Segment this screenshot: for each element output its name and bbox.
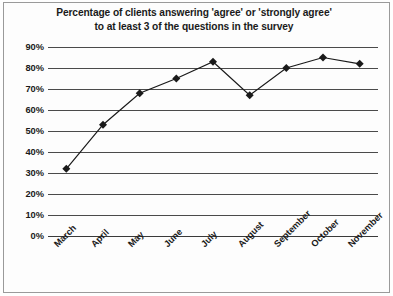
plot-area: 0%10%20%30%40%50%60%70%80%90% MarchApril… (0, 0, 393, 296)
series-line (66, 58, 359, 169)
line-series (0, 0, 393, 296)
data-point-marker (172, 75, 180, 83)
data-point-marker (356, 60, 364, 68)
data-point-marker (319, 54, 327, 62)
chart-container: Percentage of clients answering 'agree' … (0, 0, 393, 296)
